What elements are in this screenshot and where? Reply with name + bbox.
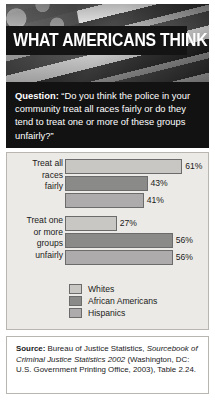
bar-group-label: Treat one or more groups unfairly bbox=[7, 215, 63, 261]
chart-panel: Treat all races fairly 61% 43% 41% bbox=[6, 152, 209, 330]
bar-group-bars: 27% 56% 56% bbox=[65, 216, 204, 267]
legend-label: Hispanics bbox=[88, 308, 125, 318]
bar-value-label: 27% bbox=[120, 218, 137, 228]
bar-hispanics bbox=[65, 193, 144, 208]
bar-group-label-line: Treat all bbox=[7, 158, 63, 170]
bar-whites bbox=[65, 216, 117, 231]
bar-group-label-line: or more bbox=[7, 227, 63, 239]
legend-swatch-icon bbox=[69, 296, 82, 306]
legend-item-hispanics: Hispanics bbox=[69, 307, 157, 319]
legend-label: Whites bbox=[88, 284, 114, 294]
chart-legend: Whites African Americans Hispanics bbox=[69, 283, 157, 319]
bar-row: 43% bbox=[65, 176, 204, 191]
bar-row: 56% bbox=[65, 233, 204, 248]
legend-label: African Americans bbox=[88, 296, 157, 306]
bar-row: 41% bbox=[65, 193, 204, 208]
bar-row: 61% bbox=[65, 159, 204, 174]
question-label: Question: bbox=[15, 90, 59, 101]
bar-value-label: 43% bbox=[150, 178, 167, 188]
title-band: WHAT AMERICANS THINK bbox=[6, 26, 187, 55]
source-part1: Bureau of Justice Statistics, bbox=[45, 344, 146, 353]
bar-group-label-line: races bbox=[7, 170, 63, 182]
source-label: Source: bbox=[16, 344, 45, 353]
bar-whites bbox=[65, 159, 182, 174]
bar-value-label: 56% bbox=[176, 235, 193, 245]
page-title: WHAT AMERICANS THINK bbox=[6, 30, 207, 51]
source-panel: Source: Bureau of Justice Statistics, So… bbox=[6, 336, 209, 394]
bar-group-label: Treat all races fairly bbox=[7, 158, 63, 193]
bar-african-americans bbox=[65, 176, 148, 191]
bar-hispanics bbox=[65, 250, 173, 265]
bar-african-americans bbox=[65, 233, 173, 248]
infographic-poster: WHAT AMERICANS THINK Question: “Do you t… bbox=[0, 0, 215, 400]
legend-swatch-icon bbox=[69, 284, 82, 294]
legend-item-african-americans: African Americans bbox=[69, 295, 157, 307]
bar-group-label-line: fairly bbox=[7, 181, 63, 193]
bar-value-label: 56% bbox=[176, 252, 193, 262]
bar-value-label: 61% bbox=[185, 161, 202, 171]
bar-group-bars: 61% 43% 41% bbox=[65, 159, 204, 210]
source-text: Source: Bureau of Justice Statistics, So… bbox=[16, 344, 199, 376]
bar-group-label-line: groups bbox=[7, 238, 63, 250]
question-block: Question: “Do you think the police in yo… bbox=[6, 82, 209, 148]
legend-swatch-icon bbox=[69, 308, 82, 318]
bar-group-label-line: Treat one bbox=[7, 215, 63, 227]
bar-value-label: 41% bbox=[147, 195, 164, 205]
bar-row: 27% bbox=[65, 216, 204, 231]
bar-row: 56% bbox=[65, 250, 204, 265]
legend-item-whites: Whites bbox=[69, 283, 157, 295]
question-text: Question: “Do you think the police in yo… bbox=[15, 89, 200, 142]
bar-group-label-line: unfairly bbox=[7, 250, 63, 262]
